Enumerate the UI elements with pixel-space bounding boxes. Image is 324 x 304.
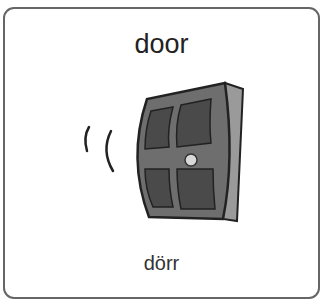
flashcard: door dörr — [3, 7, 320, 299]
door-swinging-icon — [65, 69, 265, 239]
card-translation: dörr — [5, 252, 318, 275]
card-word: door — [5, 29, 318, 60]
